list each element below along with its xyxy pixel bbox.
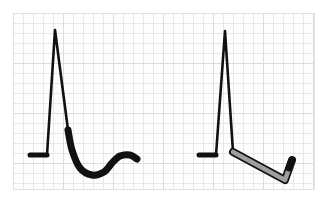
- st-terminal-hook: [289, 160, 292, 168]
- ecg-waveform-canvas: [0, 0, 328, 201]
- ecg-figure: [0, 0, 328, 201]
